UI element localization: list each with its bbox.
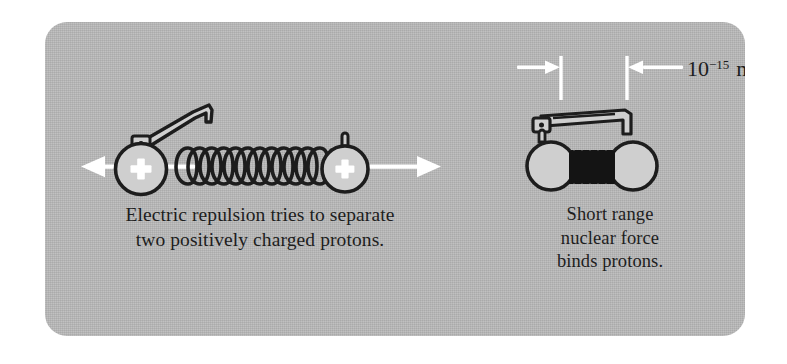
proton-stub-icon [539, 130, 545, 142]
caption-line: nuclear force [475, 227, 745, 251]
clamp-bar-icon [533, 110, 631, 134]
figure-root: Electric repulsion tries to separate two… [0, 0, 787, 364]
dimension-arrows-icon [517, 61, 683, 75]
scene-nuclear-binding: 10−15m [475, 22, 745, 336]
caption-nuclear-binding: Short range nuclear force binds protons. [475, 203, 745, 274]
caption-line: Electric repulsion tries to separate [45, 203, 475, 228]
nuclear-binding-artwork: 10−15m [475, 22, 745, 222]
proton-bound-left [527, 130, 575, 190]
dimension-unit: m [736, 56, 745, 81]
stretched-spring-icon [176, 148, 343, 184]
lever-handle-icon [141, 105, 212, 149]
caption-line: binds protons. [475, 250, 745, 274]
bond-core-overlay [569, 151, 615, 183]
dimension-mantissa: 10 [687, 56, 709, 81]
proton-right [322, 133, 368, 192]
proton-bound-right [609, 142, 657, 190]
illustration-panel: Electric repulsion tries to separate two… [45, 22, 745, 336]
caption-line: two positively charged protons. [45, 228, 475, 253]
caption-electric-repulsion: Electric repulsion tries to separate two… [45, 203, 475, 253]
electric-repulsion-artwork [45, 22, 475, 222]
dimension-label: 10−15m [687, 56, 745, 81]
caption-line: Short range [475, 203, 745, 227]
dimension-exponent: −15 [709, 57, 729, 72]
clamp-pivot-icon [539, 123, 544, 128]
dimension-extension-lines [561, 56, 627, 100]
scene-electric-repulsion: Electric repulsion tries to separate two… [45, 22, 475, 336]
proton-left [116, 144, 167, 195]
proton-stub-icon [342, 133, 348, 146]
